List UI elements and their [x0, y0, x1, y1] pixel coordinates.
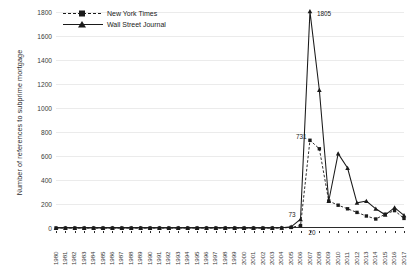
- y-axis-tick-label: 0: [48, 225, 52, 232]
- x-axis-tick-label: 2014: [371, 252, 378, 265]
- x-axis-tick-label: 2016: [390, 252, 397, 265]
- x-axis-tick-label: 2011: [343, 252, 350, 265]
- x-axis-tick-label: 1988: [127, 252, 134, 265]
- y-axis-tick-label: 1400: [37, 57, 52, 64]
- x-axis-tick-label: 1995: [193, 252, 200, 265]
- x-axis-tick-label: 1985: [99, 252, 106, 265]
- x-axis-tick-label: 2007: [306, 252, 313, 265]
- x-axis-labels: 1980198119821983198419851986198719881989…: [56, 231, 404, 265]
- y-axis-tick-label: 400: [41, 177, 52, 184]
- x-axis-tick: [206, 231, 207, 233]
- x-axis-tick: [385, 231, 386, 233]
- dashed-line-marker-icon: [63, 9, 103, 18]
- x-axis-tick-label: 1994: [183, 252, 190, 265]
- y-axis-tick-label: 1200: [37, 81, 52, 88]
- x-axis-tick: [94, 231, 95, 233]
- x-axis-tick: [216, 231, 217, 233]
- x-axis-tick: [131, 231, 132, 233]
- data-point-marker: [308, 139, 311, 142]
- data-label-731: 731: [296, 133, 307, 140]
- x-axis-tick-label: 1997: [211, 252, 218, 265]
- data-label-73: 73: [289, 211, 296, 218]
- x-axis-tick-label: 1990: [146, 252, 153, 265]
- x-axis-tick-label: 2003: [268, 252, 275, 265]
- x-axis-tick: [112, 231, 113, 233]
- x-axis-tick-label: 2001: [249, 252, 256, 265]
- x-axis-tick: [272, 231, 273, 233]
- x-axis-tick-label: 1998: [221, 252, 228, 265]
- x-axis-tick: [225, 231, 226, 233]
- x-axis-tick: [197, 231, 198, 233]
- x-axis-tick-label: 2000: [240, 252, 247, 265]
- legend-item-new-york-times: New York Times: [63, 8, 166, 19]
- x-axis-tick-label: 1987: [117, 252, 124, 265]
- x-axis-tick: [56, 231, 57, 233]
- x-axis-tick: [65, 231, 66, 233]
- series-layer: [56, 12, 404, 228]
- x-axis-tick-label: 2010: [334, 252, 341, 265]
- data-label-1805: 1805: [317, 10, 331, 17]
- x-axis-tick: [319, 231, 320, 233]
- x-axis-tick: [310, 231, 311, 233]
- x-axis-tick: [404, 231, 405, 233]
- x-axis-tick-label: 1992: [164, 252, 171, 265]
- x-axis-tick: [122, 231, 123, 233]
- x-axis-tick: [244, 231, 245, 233]
- x-axis-tick-label: 2004: [277, 252, 284, 265]
- x-axis-tick: [188, 231, 189, 233]
- x-axis-tick-label: 2017: [400, 252, 407, 265]
- x-axis-tick-label: 2005: [287, 252, 294, 265]
- x-axis-tick-label: 1996: [202, 252, 209, 265]
- x-axis-tick: [357, 231, 358, 233]
- data-point-marker: [318, 147, 321, 150]
- chart-legend: New York Times Wall Street Journal: [63, 8, 166, 30]
- x-axis-tick: [376, 231, 377, 233]
- x-axis-tick-label: 2009: [324, 252, 331, 265]
- data-point-marker: [336, 204, 339, 207]
- x-axis-tick-label: 2008: [315, 252, 322, 265]
- x-axis-tick-label: 2013: [362, 252, 369, 265]
- y-axis-tick-label: 1600: [37, 33, 52, 40]
- legend-label-new-york-times: New York Times: [107, 10, 157, 17]
- x-axis-tick: [282, 231, 283, 233]
- x-axis-tick-label: 2012: [353, 252, 360, 265]
- chart-container: Number of references to subprime mortgag…: [0, 0, 409, 265]
- x-axis-tick: [75, 231, 76, 233]
- x-axis-tick-label: 2015: [381, 252, 388, 265]
- x-axis-tick: [84, 231, 85, 233]
- x-axis-tick-label: 1999: [230, 252, 237, 265]
- x-axis-tick: [338, 231, 339, 233]
- x-axis-tick-label: 1991: [155, 252, 162, 265]
- data-point-marker: [355, 211, 358, 214]
- x-axis-tick: [254, 231, 255, 233]
- y-axis-tick-label: 1800: [37, 9, 52, 16]
- x-axis-tick: [395, 231, 396, 233]
- data-point-marker: [336, 151, 341, 155]
- data-point-marker: [298, 217, 303, 221]
- y-axis-tick-label: 200: [41, 201, 52, 208]
- x-axis-tick-label: 1982: [70, 252, 77, 265]
- solid-line-marker-icon: [63, 20, 103, 29]
- legend-label-wall-street-journal: Wall Street Journal: [107, 21, 166, 28]
- plot-area: 0200400600800100012001400160018001805731…: [56, 12, 404, 228]
- y-axis-tick-label: 600: [41, 153, 52, 160]
- x-axis-tick: [366, 231, 367, 233]
- legend-item-wall-street-journal: Wall Street Journal: [63, 19, 166, 30]
- x-axis-tick-label: 1984: [89, 252, 96, 265]
- y-axis-title: Number of references to subprime mortgag…: [15, 18, 24, 228]
- x-axis-tick: [150, 231, 151, 233]
- data-point-marker: [299, 224, 302, 227]
- x-axis-tick-label: 1980: [52, 252, 59, 265]
- x-axis-tick-label: 1989: [136, 252, 143, 265]
- data-point-marker: [392, 205, 397, 209]
- x-axis-tick: [178, 231, 179, 233]
- x-axis-tick: [263, 231, 264, 233]
- data-point-marker: [374, 217, 377, 220]
- series-line-wall-street-journal: [56, 11, 404, 228]
- x-axis-tick: [103, 231, 104, 233]
- x-axis-tick: [235, 231, 236, 233]
- x-axis-tick-label: 1986: [108, 252, 115, 265]
- data-point-marker: [346, 207, 349, 210]
- x-axis-tick: [169, 231, 170, 233]
- data-point-marker: [308, 9, 313, 13]
